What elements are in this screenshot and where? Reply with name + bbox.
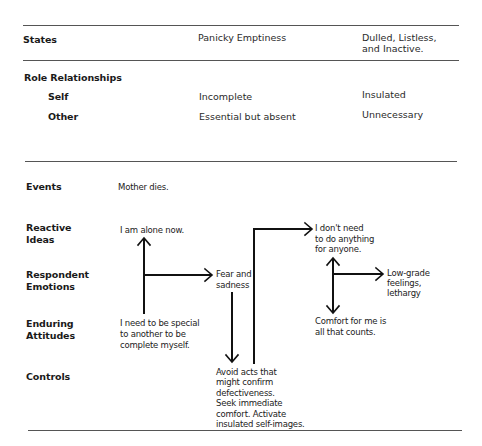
arrow-controls-to-idea: [254, 229, 311, 363]
flow-arrows: [0, 0, 482, 446]
